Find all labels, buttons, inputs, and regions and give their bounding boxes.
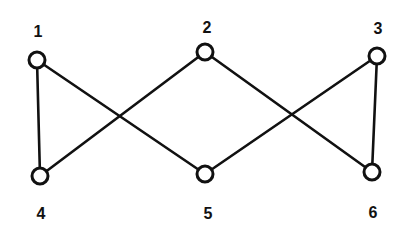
edges-group	[37, 52, 377, 176]
graph-diagram: 123456	[0, 0, 403, 239]
edge-1-4	[37, 60, 40, 176]
node-label-5: 5	[204, 205, 213, 222]
node-1	[29, 52, 45, 68]
node-label-2: 2	[203, 19, 212, 36]
nodes-group	[29, 44, 385, 184]
node-label-1: 1	[34, 23, 43, 40]
node-5	[197, 166, 213, 182]
node-label-6: 6	[369, 204, 378, 221]
edge-2-6	[205, 52, 372, 172]
edge-3-6	[372, 56, 377, 172]
node-6	[364, 164, 380, 180]
node-3	[369, 48, 385, 64]
node-4	[32, 168, 48, 184]
node-2	[197, 44, 213, 60]
edge-1-5	[37, 60, 205, 174]
node-label-3: 3	[374, 20, 383, 37]
node-label-4: 4	[37, 205, 46, 222]
